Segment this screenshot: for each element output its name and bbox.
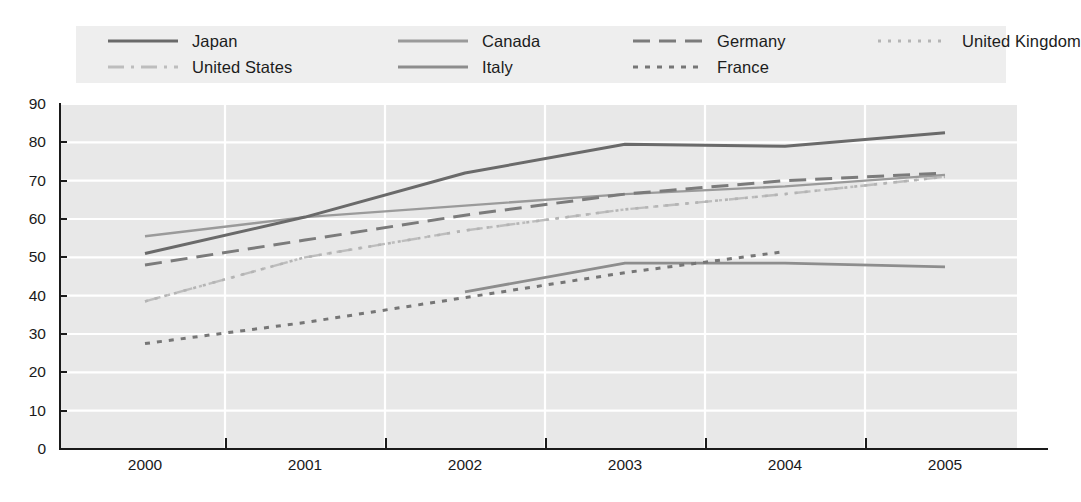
legend-row-1: JapanCanadaGermanyUnited Kingdom xyxy=(76,28,1006,54)
y-axis-tick-mark xyxy=(60,410,67,412)
y-axis-tick-label: 70 xyxy=(0,172,46,190)
legend-line-swatch-icon xyxy=(396,60,470,74)
legend-item-united-kingdom[interactable]: United Kingdom xyxy=(876,28,1081,54)
legend-item-france[interactable]: France xyxy=(631,54,769,80)
x-axis-tick-mark xyxy=(865,438,867,449)
x-axis-tick-label: 2003 xyxy=(608,456,642,474)
legend-line-swatch-icon xyxy=(631,34,705,48)
y-axis-tick-label: 60 xyxy=(0,210,46,228)
legend-item-label: Germany xyxy=(717,32,786,51)
x-axis-tick-label: 2001 xyxy=(288,456,322,474)
x-axis-line xyxy=(59,448,1048,450)
y-axis-line xyxy=(59,103,61,450)
x-axis-tick-label: 2004 xyxy=(768,456,802,474)
y-axis-tick-mark xyxy=(60,218,67,220)
legend-item-label: France xyxy=(717,58,769,77)
y-axis-tick-label: 50 xyxy=(0,248,46,266)
x-axis-tick-mark xyxy=(545,438,547,449)
legend-line-swatch-icon xyxy=(106,34,180,48)
y-axis-tick-mark xyxy=(60,295,67,297)
legend-item-united-states[interactable]: United States xyxy=(106,54,292,80)
legend-line-swatch-icon xyxy=(106,60,180,74)
x-axis-tick-mark xyxy=(225,438,227,449)
y-axis-tick-label: 30 xyxy=(0,325,46,343)
plot-area xyxy=(60,104,1017,449)
legend-item-label: United States xyxy=(192,58,292,77)
y-axis-tick-label: 10 xyxy=(0,402,46,420)
y-axis-tick-mark xyxy=(60,141,67,143)
legend-line-swatch-icon xyxy=(396,34,470,48)
legend-line-swatch-icon xyxy=(876,34,950,48)
legend-item-japan[interactable]: Japan xyxy=(106,28,237,54)
y-axis-tick-mark xyxy=(60,371,67,373)
series-line-france xyxy=(145,252,785,344)
legend-item-canada[interactable]: Canada xyxy=(396,28,540,54)
y-axis-tick-mark xyxy=(60,333,67,335)
legend-item-label: Japan xyxy=(192,32,237,51)
x-axis-tick-mark xyxy=(385,438,387,449)
x-axis-tick-mark xyxy=(705,438,707,449)
legend-item-germany[interactable]: Germany xyxy=(631,28,786,54)
y-axis-tick-mark xyxy=(60,180,67,182)
legend-row-2: United StatesItalyFrance xyxy=(76,54,1006,80)
y-axis-tick-label: 80 xyxy=(0,133,46,151)
legend-item-label: United Kingdom xyxy=(962,32,1081,51)
x-axis-tick-label: 2000 xyxy=(128,456,162,474)
y-axis-tick-mark xyxy=(60,256,67,258)
legend-item-italy[interactable]: Italy xyxy=(396,54,513,80)
legend-line-swatch-icon xyxy=(631,60,705,74)
y-axis-tick-label: 20 xyxy=(0,363,46,381)
x-axis-tick-label: 2002 xyxy=(448,456,482,474)
plot-canvas xyxy=(60,104,1017,449)
y-axis-tick-label: 40 xyxy=(0,287,46,305)
x-axis-tick-label: 2005 xyxy=(928,456,962,474)
chart-legend: JapanCanadaGermanyUnited Kingdom United … xyxy=(76,26,1006,83)
y-axis-tick-label: 90 xyxy=(0,95,46,113)
y-axis-tick-label: 0 xyxy=(0,440,46,458)
legend-item-label: Italy xyxy=(482,58,513,77)
legend-item-label: Canada xyxy=(482,32,540,51)
